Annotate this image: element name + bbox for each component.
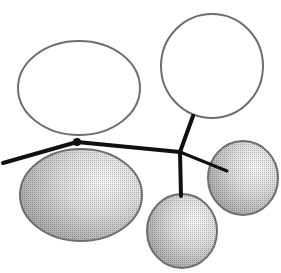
lobe-top-right [161, 14, 263, 118]
orbital-diagram [0, 0, 281, 273]
center-atom [178, 150, 183, 155]
lobe-lower-left [20, 149, 142, 241]
lobes-layer [18, 14, 278, 268]
lobe-bottom [147, 194, 217, 268]
bond-to-bottom [180, 152, 181, 196]
diagram-svg [0, 0, 281, 273]
bond-to-top-right [180, 116, 193, 152]
left-atom [73, 138, 81, 146]
lobe-right [208, 141, 278, 215]
lobe-upper-left [18, 41, 140, 135]
